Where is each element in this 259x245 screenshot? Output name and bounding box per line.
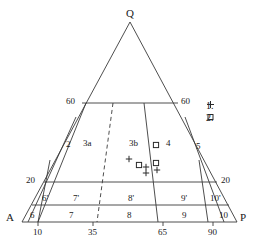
field-label-9: 9 (182, 211, 187, 220)
side-label-left-20: 20 (26, 176, 35, 185)
base-tick-label-65: 65 (158, 228, 167, 237)
square-marker (136, 162, 141, 167)
legend-item-2: 2. (206, 112, 214, 123)
field-label-6p: 6' (42, 194, 48, 203)
base-tick-label-35: 35 (88, 228, 97, 237)
square-marker (153, 142, 158, 147)
plus-marker (143, 170, 149, 176)
square-marker (153, 160, 158, 165)
side-label-left-60: 60 (66, 97, 75, 106)
divider-dashed-3a-3b (97, 103, 113, 222)
field-label-3b: 3b (129, 139, 138, 148)
legend-item-1: 1. (206, 100, 214, 111)
plus-marker (126, 156, 132, 162)
field-label-10p: 10' (210, 194, 221, 203)
divider-left-inner (28, 117, 76, 222)
divider-90 (199, 160, 208, 222)
field-label-6: 6 (30, 211, 35, 220)
plus-marker (154, 167, 160, 173)
side-label-right-60: 60 (181, 97, 190, 106)
base-tick-label-10: 10 (33, 228, 42, 237)
field-label-5: 5 (196, 142, 201, 151)
base-ticks (38, 222, 213, 226)
apex-label-a: A (6, 212, 14, 223)
divider-10 (38, 103, 86, 222)
divider-right-inner (185, 117, 224, 222)
divider-65 (144, 103, 158, 222)
diagram-canvas (0, 0, 259, 245)
field-label-10: 10 (219, 211, 228, 220)
side-label-right-20: 20 (221, 176, 230, 185)
triangle-outline (22, 22, 237, 222)
base-tick-label-90: 90 (208, 228, 217, 237)
divider-10-left (38, 160, 50, 222)
field-label-9p: 9' (181, 194, 187, 203)
field-label-7p: 7' (73, 194, 79, 203)
field-label-3a: 3a (83, 139, 92, 148)
plus-marker (143, 164, 149, 170)
square-marker-icon (206, 112, 215, 121)
field-label-7: 7 (69, 211, 74, 220)
field-label-4: 4 (166, 139, 171, 148)
field-label-8: 8 (127, 211, 132, 220)
field-label-2: 2 (66, 140, 71, 149)
field-label-8p: 8' (128, 194, 134, 203)
apex-label-p: P (240, 212, 246, 223)
ternary-diagram: Q A P 60 60 20 20 10 35 65 90 2 3a 3b 4 … (0, 0, 259, 245)
apex-label-q: Q (126, 8, 134, 19)
plus-marker-icon (206, 100, 215, 109)
